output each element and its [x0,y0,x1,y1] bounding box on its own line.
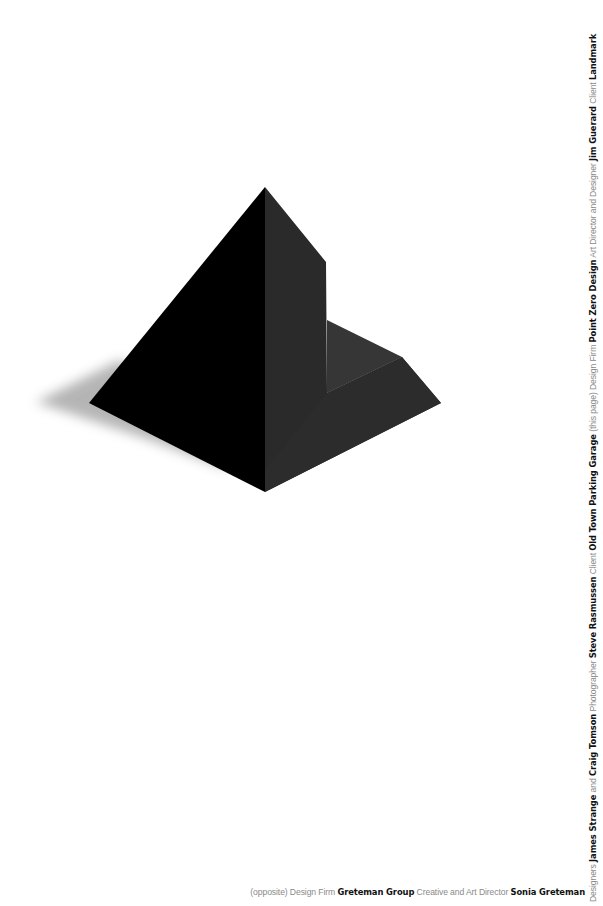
pyramid-left-face [89,187,265,492]
credit-name: Sonia Greteman [511,887,586,897]
credit-label: (this page) Design Firm [588,343,598,435]
credit-label: and [588,776,598,795]
credit-name: Landmark [588,34,598,80]
credit-vertical: Designers James Strange and Craig Tomson… [586,34,600,902]
pyramid-artwork [0,0,603,906]
credit-label: Client [588,80,598,106]
credit-name: Greteman Group [337,887,414,897]
credit-label: Photographer [588,658,598,713]
credit-label: Creative and Art Director [414,887,510,897]
credit-label: Art Director and Designer [588,161,598,260]
credit-name: Point Zero Design [588,260,598,343]
credit-name: Steve Rasmussen [588,577,598,659]
credit-name: Jim Guerard [588,106,598,161]
credit-name: Old Town Parking Garage [588,434,598,551]
credit-label: (opposite) Design Firm [250,887,337,897]
credit-label: Client [588,551,598,577]
credit-name: Craig Tomson [588,714,598,776]
credit-name: James Strange [588,795,598,862]
credit-horizontal: (opposite) Design Firm Greteman Group Cr… [250,885,585,899]
credit-label: Designers [588,862,598,902]
